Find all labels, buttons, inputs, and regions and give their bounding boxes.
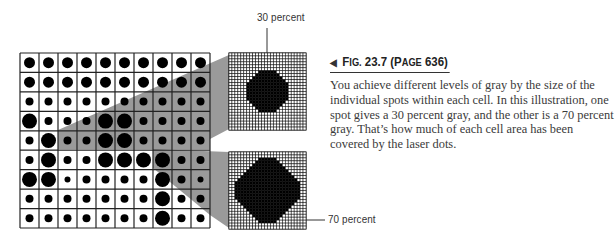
caption-body-text: You achieve different levels of gray by … (330, 78, 614, 152)
halftone-dot (121, 98, 129, 106)
halftone-dot (26, 137, 34, 145)
page-label-smallcaps: AGE (402, 56, 422, 68)
halftone-dot (98, 114, 113, 129)
halftone-dot (197, 214, 205, 222)
halftone-dot (102, 98, 110, 106)
halftone-dot (43, 57, 54, 68)
halftone-dot (140, 195, 148, 203)
halftone-dot (140, 175, 148, 183)
fig-label-smallcaps: IG. (349, 56, 361, 68)
caption-heading: ◀FIG. 23.7 (PAGE 636) (330, 54, 450, 73)
halftone-dot (83, 156, 91, 164)
halftone-dot (45, 214, 53, 222)
halftone-dot (155, 211, 170, 226)
halftone-dot (26, 156, 34, 164)
halftone-dot (140, 98, 148, 106)
fig-number: 23.7 ( (362, 54, 394, 69)
halftone-dot (138, 77, 149, 88)
halftone-dot (159, 137, 167, 145)
halftone-dot (197, 117, 205, 125)
halftone-dot (102, 175, 110, 183)
halftone-dot (119, 77, 130, 88)
halftone-dot (24, 77, 35, 88)
label-30-percent: 30 percent (257, 11, 305, 23)
halftone-dot (176, 77, 187, 88)
page-label-cap: P (394, 54, 402, 69)
halftone-dot (140, 214, 148, 222)
halftone-dot (41, 152, 56, 167)
halftone-dot (98, 152, 113, 167)
halftone-dot (117, 152, 132, 167)
halftone-dot (178, 156, 186, 164)
halftone-dot (197, 156, 205, 164)
halftone-dot (83, 117, 91, 125)
halftone-dot (83, 137, 91, 145)
halftone-dot (155, 172, 170, 187)
magnified-cell-30-percent (229, 53, 306, 130)
fig-label-cap: F (342, 54, 349, 69)
halftone-dot (41, 172, 56, 187)
halftone-dot (64, 137, 72, 145)
halftone-dot (62, 77, 73, 88)
halftone-dot (121, 214, 129, 222)
halftone-dot (159, 98, 167, 106)
halftone-dot (119, 57, 130, 68)
halftone-dot (45, 195, 53, 203)
halftone-dot (178, 117, 186, 125)
halftone-dot (155, 152, 170, 167)
halftone-dot (64, 98, 72, 106)
halftone-dot (136, 152, 151, 167)
halftone-dot (197, 137, 205, 145)
halftone-dot (62, 57, 73, 68)
halftone-dot (83, 98, 91, 106)
halftone-dot (81, 57, 92, 68)
halftone-dot (178, 214, 186, 222)
halftone-dot (64, 195, 72, 203)
halftone-dot (26, 98, 34, 106)
halftone-dot (83, 195, 91, 203)
halftone-dot (81, 77, 92, 88)
halftone-dot (102, 195, 110, 203)
halftone-dot (43, 77, 54, 88)
halftone-dot (157, 77, 168, 88)
halftone-dot (121, 175, 129, 183)
halftone-dot (197, 98, 205, 106)
halftone-dot (26, 195, 34, 203)
halftone-dot (195, 57, 206, 68)
halftone-dot (100, 77, 111, 88)
halftone-dot (64, 156, 72, 164)
halftone-dot (155, 191, 170, 206)
halftone-dot (83, 175, 91, 183)
page-number: 636) (422, 54, 448, 69)
halftone-dot (22, 172, 37, 187)
halftone-dot (64, 214, 72, 222)
halftone-dot (102, 214, 110, 222)
halftone-dot (197, 195, 205, 203)
halftone-dot (178, 175, 186, 183)
halftone-dot (159, 117, 167, 125)
halftone-dot (100, 57, 111, 68)
halftone-dot (24, 57, 35, 68)
halftone-dot (178, 137, 186, 145)
halftone-dot (98, 133, 113, 148)
halftone-dot (26, 214, 34, 222)
left-arrow-icon: ◀ (330, 57, 337, 68)
halftone-dot (178, 98, 186, 106)
halftone-dot (117, 114, 132, 129)
halftone-dot (195, 77, 206, 88)
halftone-dot (83, 214, 91, 222)
halftone-dot (121, 195, 129, 203)
halftone-dot (198, 176, 204, 182)
halftone-dot (140, 137, 148, 145)
halftone-dot (176, 57, 187, 68)
halftone-dot (140, 117, 148, 125)
magnified-cell-70-percent (229, 152, 306, 229)
halftone-figure-page: 30 percent 70 percent ◀FIG. 23.7 (PAGE 6… (0, 0, 616, 241)
halftone-dot (22, 114, 37, 129)
figure-caption: ◀FIG. 23.7 (PAGE 636) You achieve differ… (330, 52, 616, 152)
halftone-dot (157, 57, 168, 68)
halftone-dot (45, 117, 53, 125)
halftone-dot (64, 117, 72, 125)
halftone-dot (178, 195, 186, 203)
halftone-dot (45, 98, 53, 106)
